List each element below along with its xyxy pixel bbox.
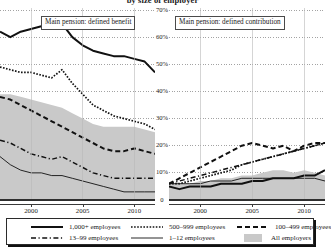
x-axis-left: 200020052010: [0, 204, 155, 216]
panel-defined-contribution: Main pension: defined contribution: [169, 8, 325, 204]
panel-defined-benefit: Main pension: defined benefit: [0, 8, 155, 204]
legend-item[interactable]: 1,000+ employees: [7, 221, 125, 233]
panel-right-caption: Main pension: defined contribution: [175, 16, 285, 30]
x-axis-tick-label: 2010: [297, 207, 311, 215]
x-axis-tick-label: 2010: [128, 207, 142, 215]
y-axis-tick-label: 20%: [155, 142, 169, 149]
legend-item[interactable]: 13–99 employees: [7, 232, 125, 244]
line-solid-thin-icon: [129, 233, 165, 243]
legend-item-label: 1,000+ employees: [69, 222, 120, 232]
panel-left-caption: Main pension: defined benefit: [41, 16, 135, 30]
x-axis-tick-label: 2000: [24, 207, 38, 215]
line-dashdot-icon: [29, 233, 65, 243]
y-axis-tick-label: 0: [155, 197, 169, 204]
legend-item-label: All employers: [271, 233, 311, 243]
x-axis-left-line: [0, 204, 155, 205]
area-swatch-icon: [244, 234, 262, 242]
legend-item[interactable]: 1–12 employees: [125, 232, 235, 244]
panel-left-svg: [0, 8, 155, 204]
y-axis-tick-label: 60%: [155, 34, 169, 41]
legend-item-label: 500–999 employees: [169, 222, 225, 232]
panel-left-canvas: [0, 8, 155, 204]
y-axis-tick-label: 70%: [155, 7, 169, 14]
x-axis-right: 200020052010: [169, 204, 325, 216]
x-axis-tick-label: 2005: [245, 207, 259, 215]
page-title: by size of employer: [0, 0, 325, 5]
y-axis: 010%20%30%40%50%60%70%: [155, 8, 169, 204]
y-axis-tick-label: 40%: [155, 88, 169, 95]
legend: 1,000+ employees500–999 employees100–499…: [6, 218, 314, 245]
panel-right-svg: [169, 8, 325, 204]
legend-item[interactable]: All employers: [235, 232, 315, 244]
line-dotted-icon: [129, 222, 165, 232]
x-axis-tick-label: 2005: [76, 207, 90, 215]
y-axis-tick-label: 30%: [155, 115, 169, 122]
legend-item-label: 13–99 employees: [69, 233, 118, 243]
legend-row: 13–99 employees1–12 employeesAll employe…: [7, 232, 313, 244]
legend-item-label: 1–12 employees: [169, 233, 215, 243]
y-axis-tick-label: 10%: [155, 169, 169, 176]
legend-item[interactable]: 100–499 employees: [235, 221, 331, 233]
legend-row: 1,000+ employees500–999 employees100–499…: [7, 221, 313, 233]
x-axis-tick-label: 2000: [193, 207, 207, 215]
line-dashed-icon: [235, 222, 271, 232]
y-axis-tick-label: 50%: [155, 61, 169, 68]
legend-item-label: 100–499 employees: [275, 222, 331, 232]
x-axis-right-line: [169, 204, 325, 205]
panel-right-canvas: [169, 8, 325, 204]
legend-item[interactable]: 500–999 employees: [125, 221, 235, 233]
line-solid-thick-icon: [29, 222, 65, 232]
